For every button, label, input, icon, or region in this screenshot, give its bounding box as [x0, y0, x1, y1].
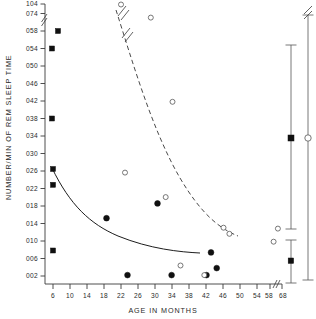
data-point [214, 265, 220, 271]
x-tick-label: 42 [202, 292, 210, 299]
y-tick-labels: 002 006 010 014 018 022 026 030 034 038 … [26, 0, 38, 279]
x-axis: 6 10 14 18 22 26 30 34 38 42 46 50 54 58… [45, 280, 287, 315]
y-tick-label: 002 [26, 272, 38, 279]
x-tick-label: 10 [66, 292, 74, 299]
data-point [169, 272, 175, 278]
series-filled-circles [104, 201, 220, 279]
error-bar-filled-group-2 [286, 240, 297, 283]
x-tick-label: 46 [219, 292, 227, 299]
x-tick-label: 30 [151, 292, 159, 299]
x-tick-marks [53, 284, 282, 289]
y-tick-label: 050 [26, 62, 38, 69]
x-tick-label: 58 [265, 292, 273, 299]
y-tick-label: 022 [26, 185, 38, 192]
data-point [119, 2, 124, 7]
data-point [202, 273, 207, 278]
data-point [50, 46, 55, 51]
series-filled-squares [50, 29, 61, 254]
data-point [51, 182, 56, 187]
solid-fit-curve [52, 168, 200, 253]
y-tick-label: 038 [26, 115, 38, 122]
y-tick-label: 010 [26, 237, 38, 244]
y-tick-label: 014 [26, 220, 38, 227]
data-point [155, 201, 161, 207]
y-tick-label: 018 [26, 202, 38, 209]
error-bar-mean-marker [288, 258, 293, 263]
y-tick-marks [41, 4, 46, 276]
error-bar-open-group [303, 6, 314, 280]
y-axis: 002 006 010 014 018 022 026 030 034 038 … [4, 0, 47, 284]
data-point [170, 99, 175, 104]
data-point [178, 263, 183, 268]
x-tick-labels: 6 10 14 18 22 26 30 34 38 42 46 50 54 58… [51, 292, 287, 299]
data-point [51, 167, 56, 172]
data-point [104, 215, 110, 221]
x-tick-label: 6 [51, 292, 55, 299]
x-tick-label: 34 [168, 292, 176, 299]
y-tick-label: 054 [26, 45, 38, 52]
y-tick-label: 026 [26, 167, 38, 174]
data-point [148, 15, 153, 20]
y-tick-label: 074 [26, 10, 38, 17]
x-tick-label: 14 [83, 292, 91, 299]
y-tick-label: 034 [26, 132, 38, 139]
chart-svg: 002 006 010 014 018 022 026 030 034 038 … [0, 0, 316, 319]
data-point [125, 272, 131, 278]
x-tick-label: 26 [134, 292, 142, 299]
y-tick-label: 042 [26, 97, 38, 104]
y-tick-label: 104 [26, 0, 38, 7]
x-axis-title: AGE IN MONTHS [128, 306, 197, 315]
data-point [271, 239, 276, 244]
data-point [275, 226, 280, 231]
y-axis-title: NUMBER/MIN OF REM SLEEP TIME [4, 54, 13, 200]
data-point [221, 225, 226, 230]
dashed-fit-curve [116, 10, 238, 236]
data-point [227, 231, 232, 236]
data-point [51, 248, 56, 253]
rem-sleep-scatter-figure: 002 006 010 014 018 022 026 030 034 038 … [0, 0, 316, 319]
dashed-curve-break-marks [118, 6, 133, 42]
y-tick-label: 030 [26, 150, 38, 157]
x-tick-label: 54 [253, 292, 261, 299]
data-point [123, 170, 128, 175]
data-point [50, 116, 55, 121]
y-tick-label: 046 [26, 80, 38, 87]
x-tick-label: 18 [100, 292, 108, 299]
series-open-circles [119, 2, 281, 278]
error-bar-mean-marker [288, 135, 294, 141]
y-axis-break-mark [42, 14, 48, 26]
y-tick-label: 058 [26, 27, 38, 34]
data-point [163, 195, 168, 200]
x-tick-label: 38 [185, 292, 193, 299]
x-tick-label: 68 [279, 292, 287, 299]
y-tick-label: 006 [26, 255, 38, 262]
data-point [208, 250, 214, 256]
data-point [56, 29, 61, 34]
x-tick-label: 22 [117, 292, 125, 299]
error-bar-mean-marker [305, 135, 311, 141]
x-tick-label: 50 [236, 292, 244, 299]
error-bar-filled-group [286, 45, 297, 229]
